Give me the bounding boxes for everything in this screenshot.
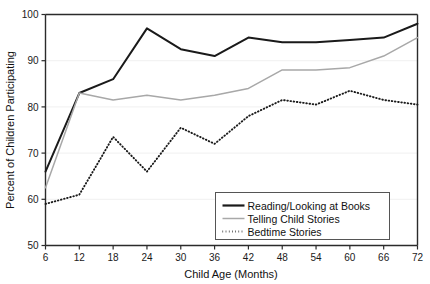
y-tick-label: 80 [27, 102, 39, 113]
y-axis-title: Percent of Children Participating [4, 51, 16, 209]
legend-item-label: Reading/Looking at Books [248, 200, 371, 212]
y-tick-label: 50 [27, 240, 39, 251]
chart-legend: Reading/Looking at BooksTelling Child St… [216, 193, 390, 240]
y-tick-label: 60 [27, 194, 39, 205]
x-tick-label: 42 [243, 252, 255, 263]
chart-container: 61218243036424854606672 5060708090100 Re… [0, 0, 430, 284]
y-tick-label: 70 [27, 148, 39, 159]
y-tick-label: 90 [27, 55, 39, 66]
x-axis-title: Child Age (Months) [184, 268, 278, 280]
x-tick-label: 24 [141, 252, 153, 263]
legend-item-label: Bedtime Stories [248, 226, 322, 238]
legend-item-label: Telling Child Stories [248, 213, 340, 225]
x-tick-label: 18 [108, 252, 120, 263]
x-tick-label: 12 [74, 252, 86, 263]
x-tick-label: 54 [310, 252, 322, 263]
y-tick-label: 100 [22, 9, 39, 20]
x-tick-label: 48 [277, 252, 289, 263]
x-tick-label: 36 [209, 252, 221, 263]
x-tick-label: 60 [344, 252, 356, 263]
x-tick-label: 66 [378, 252, 390, 263]
x-tick-label: 6 [43, 252, 49, 263]
x-tick-label: 72 [412, 252, 424, 263]
chart-background [0, 0, 430, 284]
line-chart: 61218243036424854606672 5060708090100 Re… [0, 0, 430, 284]
x-tick-label: 30 [175, 252, 187, 263]
